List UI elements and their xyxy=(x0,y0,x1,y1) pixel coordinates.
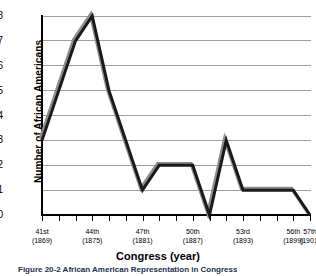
x-tick-year: (1869) xyxy=(19,237,65,246)
y-axis-tick-label: 6 xyxy=(0,60,3,71)
x-axis-tick xyxy=(210,215,211,221)
x-axis-title: Congress (year) xyxy=(0,250,316,262)
x-tick-congress: 47th xyxy=(136,228,150,235)
x-tick-congress: 41st xyxy=(35,228,48,235)
x-axis-tick xyxy=(159,215,160,221)
y-axis-tick-label: 7 xyxy=(0,35,3,46)
y-axis-tick-label: 4 xyxy=(0,110,3,121)
y-axis-tick-label: 1 xyxy=(0,184,3,195)
plot-area xyxy=(41,15,311,215)
x-tick-congress: 57th xyxy=(303,228,316,235)
x-axis-tick-label: 44th(1875) xyxy=(69,228,115,245)
x-tick-congress: 53rd xyxy=(236,228,250,235)
x-tick-year: (1881) xyxy=(120,237,166,246)
figure-container: Number of African Americans 876543210 41… xyxy=(0,0,316,276)
x-tick-year: (1901) xyxy=(287,237,316,246)
series-line-shadow xyxy=(40,14,308,213)
series-line-main xyxy=(42,16,310,215)
x-axis-tick-label: 47th(1881) xyxy=(120,228,166,245)
x-axis-tick xyxy=(59,215,60,221)
x-axis-tick-label: 53rd(1893) xyxy=(220,228,266,245)
x-axis-tick xyxy=(243,215,244,221)
x-axis-tick xyxy=(109,215,110,221)
x-axis-tick xyxy=(193,215,194,221)
x-tick-congress: 44th xyxy=(85,228,99,235)
x-axis-ticks xyxy=(41,215,311,222)
x-axis-tick xyxy=(310,215,311,221)
x-axis-tick-label: 41st(1869) xyxy=(19,228,65,245)
x-tick-year: (1887) xyxy=(170,237,216,246)
x-axis-tick xyxy=(293,215,294,221)
x-axis-tick-label: 50th(1887) xyxy=(170,228,216,245)
x-axis-tick-label: 57th(1901) xyxy=(287,228,316,245)
x-axis-tick xyxy=(176,215,177,221)
x-tick-year: (1875) xyxy=(69,237,115,246)
figure-caption: Figure 20-2 African American Representat… xyxy=(18,265,308,274)
data-series-line xyxy=(41,15,311,215)
y-axis-tick-label: 3 xyxy=(0,134,3,145)
x-axis-tick xyxy=(76,215,77,221)
x-axis-tick xyxy=(143,215,144,221)
x-axis-tick xyxy=(260,215,261,221)
x-axis-tick xyxy=(42,215,43,221)
x-axis-tick xyxy=(226,215,227,221)
y-axis-tick-label: 5 xyxy=(0,85,3,96)
x-tick-congress: 50th xyxy=(186,228,200,235)
x-axis-tick xyxy=(277,215,278,221)
x-axis-tick xyxy=(92,215,93,221)
y-axis-tick-label: 0 xyxy=(0,209,3,220)
y-axis-tick-label: 2 xyxy=(0,159,3,170)
y-axis-tick-label: 8 xyxy=(0,10,3,21)
x-tick-year: (1893) xyxy=(220,237,266,246)
x-axis-tick xyxy=(126,215,127,221)
x-axis-tick-labels: 41st(1869)44th(1875)47th(1881)50th(1887)… xyxy=(0,228,316,250)
